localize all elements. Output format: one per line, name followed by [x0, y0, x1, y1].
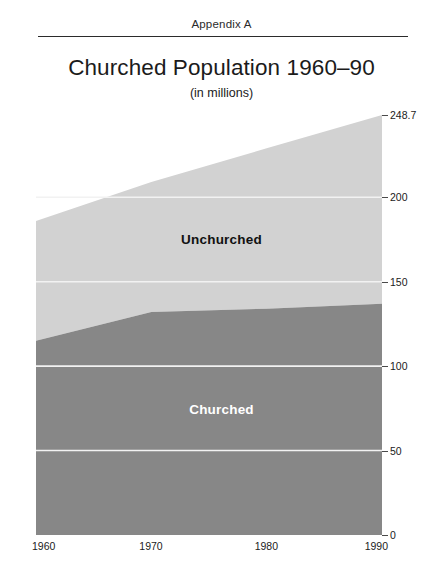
y-axis-label: 150 — [390, 277, 408, 288]
y-axis-label: 100 — [390, 361, 408, 372]
chart-area-stacked: 050100150200248.7 1960197019801990 Unchu… — [0, 0, 443, 571]
y-axis: 050100150200248.7 — [382, 0, 443, 571]
series-churched-area — [36, 304, 382, 535]
y-axis-tick — [382, 535, 388, 536]
x-axis-label: 1990 — [365, 541, 388, 552]
y-axis-tick — [382, 197, 388, 198]
series-label-churched: Churched — [0, 402, 443, 417]
area-chart-svg — [36, 115, 382, 535]
x-axis-label: 1960 — [32, 541, 55, 552]
y-axis-tick — [382, 451, 388, 452]
appendix-page: Appendix A Churched Population 1960–90 (… — [0, 0, 443, 571]
x-axis: 1960197019801990 — [0, 541, 443, 561]
y-axis-tick — [382, 282, 388, 283]
y-axis-label: 248.7 — [390, 110, 416, 121]
y-axis-label: 50 — [390, 446, 402, 457]
y-axis-tick — [382, 366, 388, 367]
x-axis-label: 1970 — [139, 541, 162, 552]
y-axis-tick — [382, 115, 388, 116]
plot-canvas — [36, 115, 382, 535]
y-axis-label: 200 — [390, 192, 408, 203]
series-label-unchurched: Unchurched — [0, 232, 443, 247]
y-axis-label: 0 — [390, 530, 396, 541]
x-axis-label: 1980 — [255, 541, 278, 552]
